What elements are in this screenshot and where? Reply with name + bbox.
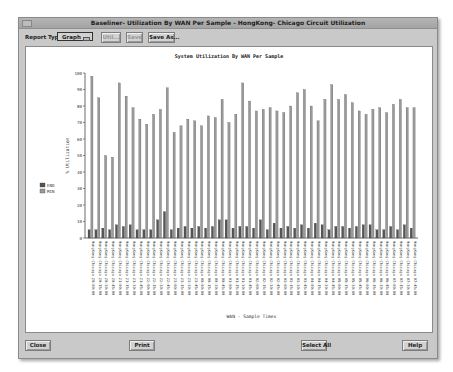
bar-end	[362, 225, 364, 238]
bar-end	[294, 228, 296, 238]
bar-min	[125, 96, 127, 238]
bar-min	[255, 111, 257, 238]
bar-min	[351, 103, 353, 238]
x-axis-label: WAN - Sample Times	[227, 314, 277, 319]
x-tick-label: HongKong-Chicago 06:45:00	[385, 241, 389, 295]
bar-min	[235, 114, 237, 238]
bar-min	[399, 99, 401, 238]
report-window: Baseliner- Utilization By WAN Per Sample…	[18, 17, 438, 359]
y-tick-label: 0	[79, 236, 82, 241]
x-tick-label: HongKong-Chicago 20:15:00	[98, 241, 102, 295]
x-tick-label: HongKong-Chicago 05:00:00	[337, 241, 341, 295]
x-tick-label: HongKong-Chicago 21:45:00	[139, 241, 143, 295]
bar-min	[372, 109, 374, 238]
toolbar: Report Type Graph Util... Save Save As..…	[19, 29, 437, 45]
bar-end	[403, 225, 405, 238]
x-tick-label: HongKong-Chicago 20:00:00	[91, 241, 95, 295]
print-button[interactable]: Print	[129, 340, 155, 351]
bar-end	[225, 220, 227, 238]
bar-end	[129, 225, 131, 238]
bar-end	[348, 228, 350, 238]
bar-min	[132, 108, 134, 238]
bar-min	[317, 121, 319, 238]
bar-end	[253, 228, 255, 238]
legend-label-min: MIN	[47, 189, 55, 194]
x-tick-label: HongKong-Chicago 21:15:00	[125, 241, 129, 295]
bar-min	[105, 156, 107, 239]
x-tick-label: HongKong-Chicago 04:15:00	[317, 241, 321, 295]
save-as-button[interactable]: Save As...	[148, 32, 175, 43]
x-tick-label: HongKong-Chicago 02:45:00	[276, 241, 280, 295]
bar-min	[180, 126, 182, 238]
y-tick-label: 80	[77, 104, 83, 109]
bar-min	[310, 106, 312, 238]
bar-end	[321, 225, 323, 238]
bar-end	[163, 212, 165, 238]
bar-end	[342, 226, 344, 238]
report-type-select[interactable]: Graph	[57, 32, 93, 41]
util-button[interactable]: Util...	[101, 32, 121, 43]
help-button[interactable]: Help	[402, 340, 428, 351]
bar-end	[335, 226, 337, 238]
bar-end	[198, 226, 200, 238]
bar-end	[122, 226, 124, 238]
bar-min	[296, 93, 298, 238]
report-type-value: Graph	[62, 34, 81, 40]
bar-end	[246, 226, 248, 238]
y-tick-label: 60	[77, 137, 83, 142]
select-all-button[interactable]: Select All	[301, 340, 327, 351]
bar-end	[232, 228, 234, 238]
x-tick-label: HongKong-Chicago 07:15:00	[399, 241, 403, 295]
dropdown-indicator-icon	[83, 37, 90, 41]
bar-min	[228, 123, 230, 239]
y-tick-label: 70	[77, 120, 83, 125]
y-axis-label: % Utilization	[65, 137, 70, 173]
window-title: Baseliner- Utilization By WAN Per Sample…	[91, 19, 365, 26]
bar-end	[383, 230, 385, 238]
bar-min	[139, 119, 141, 238]
bar-min	[242, 83, 244, 238]
x-tick-label: HongKong-Chicago 03:00:00	[283, 241, 287, 295]
x-tick-label: HongKong-Chicago 05:30:00	[351, 241, 355, 295]
x-tick-label: HongKong-Chicago 07:45:00	[413, 241, 417, 295]
bar-min	[276, 111, 278, 238]
bar-min	[221, 99, 223, 238]
bar-min	[152, 114, 154, 238]
x-tick-label: HongKong-Chicago 04:45:00	[331, 241, 335, 295]
x-tick-label: HongKong-Chicago 02:00:00	[255, 241, 259, 295]
bar-min	[269, 108, 271, 238]
x-tick-label: HongKong-Chicago 21:30:00	[132, 241, 136, 295]
bar-end	[170, 230, 172, 238]
x-tick-label: HongKong-Chicago 01:30:00	[241, 241, 245, 295]
x-tick-label: HongKong-Chicago 01:00:00	[228, 241, 232, 295]
x-tick-label: HongKong-Chicago 23:15:00	[180, 241, 184, 295]
y-tick-label: 20	[77, 203, 83, 208]
bar-min	[98, 98, 100, 238]
bar-end	[307, 228, 309, 238]
x-tick-label: HongKong-Chicago 00:15:00	[207, 241, 211, 295]
legend-label-end: END	[47, 183, 55, 188]
x-tick-label: HongKong-Chicago 00:00:00	[200, 241, 204, 295]
bar-min	[207, 116, 209, 238]
x-tick-label: HongKong-Chicago 03:15:00	[289, 241, 293, 295]
bar-end	[410, 228, 412, 238]
bar-min	[214, 118, 216, 238]
x-tick-label: HongKong-Chicago 22:30:00	[159, 241, 163, 295]
x-tick-label: HongKong-Chicago 02:30:00	[269, 241, 273, 295]
x-tick-label: HongKong-Chicago 06:00:00	[365, 241, 369, 295]
legend-swatch-min	[40, 189, 45, 193]
bar-end	[390, 226, 392, 238]
bar-end	[218, 220, 220, 238]
bar-end	[259, 220, 261, 238]
bar-end	[191, 228, 193, 238]
save-button[interactable]: Save	[126, 32, 143, 43]
window-titlebar[interactable]: Baseliner- Utilization By WAN Per Sample…	[19, 18, 437, 29]
y-tick-label: 10	[77, 219, 83, 224]
bar-min	[324, 99, 326, 238]
bar-min	[344, 94, 346, 238]
bar-min	[91, 76, 93, 238]
window-menu-icon[interactable]	[22, 20, 32, 27]
y-tick-label: 90	[77, 87, 83, 92]
x-tick-label: HongKong-Chicago 00:30:00	[214, 241, 218, 295]
close-button[interactable]: Close	[25, 340, 51, 351]
